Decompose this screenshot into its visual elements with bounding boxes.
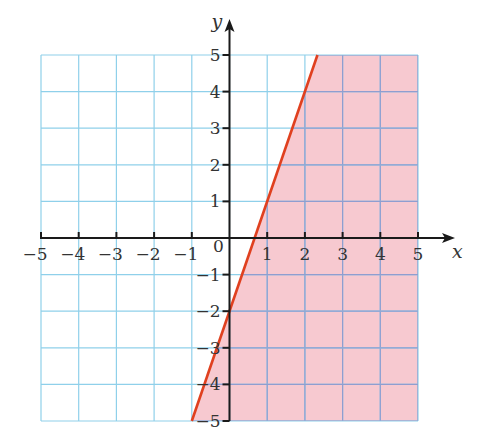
x-tick-label: −5 xyxy=(22,244,47,264)
x-tick-label: 5 xyxy=(413,244,424,264)
y-tick-label: 4 xyxy=(210,82,221,102)
y-tick-label: −5 xyxy=(195,411,220,431)
x-tick-label: 1 xyxy=(262,244,273,264)
x-tick-label: 3 xyxy=(337,244,348,264)
y-tick-label: 1 xyxy=(210,191,221,211)
inequality-chart: −5−4−3−2−112345054321−1−2−3−4−5xy xyxy=(0,0,482,444)
x-tick-label: −1 xyxy=(173,244,198,264)
origin-label: 0 xyxy=(213,236,224,256)
y-tick-label: −4 xyxy=(195,374,220,394)
y-tick-label: 2 xyxy=(210,155,221,175)
x-axis-label: x xyxy=(452,240,463,262)
y-tick-label: −2 xyxy=(195,301,220,321)
y-axis-label: y xyxy=(211,10,223,32)
y-tick-label: −1 xyxy=(195,265,220,285)
y-tick-label: −3 xyxy=(195,338,220,358)
y-tick-label: 5 xyxy=(210,45,221,65)
x-tick-label: −2 xyxy=(136,244,161,264)
x-tick-label: −3 xyxy=(98,244,123,264)
y-tick-label: 3 xyxy=(210,118,221,138)
x-tick-label: 2 xyxy=(299,244,310,264)
x-tick-label: −4 xyxy=(60,244,85,264)
x-tick-label: 4 xyxy=(375,244,386,264)
